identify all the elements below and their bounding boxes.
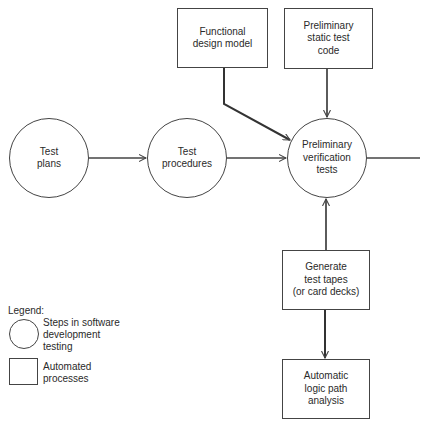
node-preliminary-verification-tests: Preliminary verification tests bbox=[287, 118, 367, 198]
node-label-line: Automatic bbox=[304, 370, 348, 383]
legend-label-line: development bbox=[43, 329, 120, 341]
node-label-line: procedures bbox=[162, 158, 212, 171]
node-label-line: Test bbox=[162, 146, 212, 159]
legend-label-line: processes bbox=[43, 373, 91, 385]
node-label-line: plans bbox=[37, 158, 61, 171]
node-generate-test-tapes: Generate test tapes (or card decks) bbox=[282, 250, 370, 310]
legend-label-line: Automated bbox=[43, 361, 91, 373]
node-label-line: static test bbox=[303, 32, 353, 45]
legend-box-icon bbox=[9, 358, 38, 385]
node-label-line: code bbox=[303, 45, 353, 58]
node-test-plans: Test plans bbox=[9, 118, 89, 198]
node-preliminary-static-test-code: Preliminary static test code bbox=[284, 8, 373, 69]
node-label-line: design model bbox=[193, 38, 252, 51]
legend-label-steps: Steps in software development testing bbox=[43, 317, 120, 353]
node-label-line: logic path bbox=[304, 383, 348, 396]
legend-label-line: testing bbox=[43, 341, 120, 353]
node-label-line: Preliminary bbox=[303, 20, 353, 33]
node-label-line: tests bbox=[302, 164, 352, 177]
legend-title: Legend: bbox=[8, 305, 44, 316]
legend-label-line: Steps in software bbox=[43, 317, 120, 329]
legend-circle-icon bbox=[9, 319, 39, 349]
node-label-line: Preliminary bbox=[302, 139, 352, 152]
node-label-line: Generate bbox=[293, 261, 360, 274]
node-label-line: (or card decks) bbox=[293, 286, 360, 299]
node-label-line: Test bbox=[37, 146, 61, 159]
node-label-line: Functional bbox=[193, 26, 252, 39]
node-functional-design-model: Functional design model bbox=[177, 8, 268, 68]
node-label-line: test tapes bbox=[293, 274, 360, 287]
edge-design-model-to-verification bbox=[224, 67, 290, 140]
node-automatic-logic-path-analysis: Automatic logic path analysis bbox=[282, 359, 370, 419]
legend-label-automated: Automated processes bbox=[43, 361, 91, 385]
node-label-line: analysis bbox=[304, 395, 348, 408]
node-test-procedures: Test procedures bbox=[147, 118, 227, 198]
node-label-line: verification bbox=[302, 152, 352, 165]
